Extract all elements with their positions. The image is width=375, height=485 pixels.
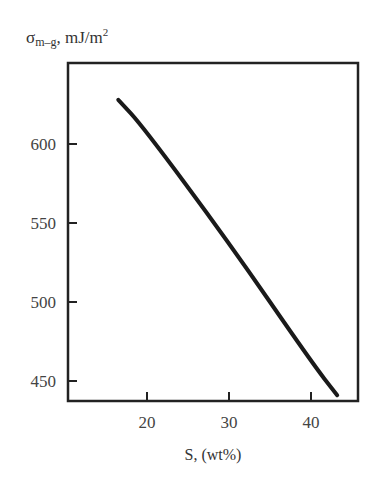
x-tick-label: 30 [221, 413, 238, 432]
x-axis-ticks: 203040 [139, 392, 320, 432]
y-tick-label: 600 [31, 135, 57, 154]
data-line [118, 100, 337, 395]
y-axis-ticks: 450500550600 [31, 135, 78, 391]
y-tick-label: 550 [31, 214, 57, 233]
x-axis-label: S, (wt%) [185, 446, 242, 464]
y-tick-label: 500 [31, 293, 57, 312]
plot-frame [68, 63, 358, 401]
x-tick-label: 40 [303, 413, 320, 432]
line-chart: 450500550600 203040 S, (wt%) [0, 0, 375, 485]
y-tick-label: 450 [31, 372, 57, 391]
x-tick-label: 20 [139, 413, 156, 432]
